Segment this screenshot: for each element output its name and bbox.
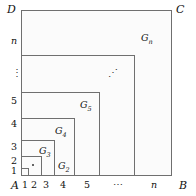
- region-rect-g1: [21, 168, 29, 176]
- bottom-tick-2: 2: [31, 180, 37, 190]
- left-tick-3: 3: [11, 142, 17, 152]
- corner-label-c: C: [176, 4, 184, 15]
- region-label-gn-base: G: [141, 32, 149, 43]
- bottom-axis-ellipsis: ⋯: [113, 180, 123, 190]
- left-tick-1: 1: [11, 166, 17, 176]
- nested-squares-figure: D C A B 1 2 3 4 5 ⋮ n 1 2 3 4 5 ⋯ n Gn G…: [0, 0, 196, 196]
- bottom-tick-1: 1: [22, 180, 28, 190]
- region-label-g5: G5: [80, 100, 92, 112]
- region-label-g4-base: G: [55, 125, 63, 136]
- corner-label-d: D: [7, 4, 16, 15]
- bottom-tick-4: 4: [60, 180, 66, 190]
- bottom-tick-n: n: [151, 180, 157, 190]
- region-label-g2: G2: [58, 161, 70, 173]
- region-label-gn: Gn: [141, 33, 153, 45]
- region-label-g5-sub: 5: [88, 105, 92, 113]
- region-label-g4-sub: 4: [63, 131, 67, 139]
- region-label-g3-sub: 3: [47, 151, 51, 159]
- region-label-g5-base: G: [80, 99, 88, 110]
- left-axis-ellipsis: ⋮: [12, 68, 22, 78]
- corner-label-b: B: [179, 180, 187, 191]
- region-label-g2-sub: 2: [66, 166, 70, 174]
- left-tick-2: 2: [11, 156, 17, 166]
- left-tick-5: 5: [11, 96, 17, 106]
- bottom-tick-5: 5: [84, 180, 90, 190]
- left-tick-4: 4: [11, 119, 17, 129]
- region-label-g3: G3: [39, 146, 51, 158]
- region-label-g4: G4: [55, 126, 67, 138]
- bottom-tick-3: 3: [43, 180, 49, 190]
- region-label-gn-sub: n: [149, 38, 153, 46]
- left-tick-n: n: [11, 36, 17, 46]
- corner-label-a: A: [11, 180, 19, 191]
- diagonal-ellipsis: ⋰: [108, 68, 118, 78]
- region-label-g2-base: G: [58, 160, 66, 171]
- region-label-g3-base: G: [39, 145, 47, 156]
